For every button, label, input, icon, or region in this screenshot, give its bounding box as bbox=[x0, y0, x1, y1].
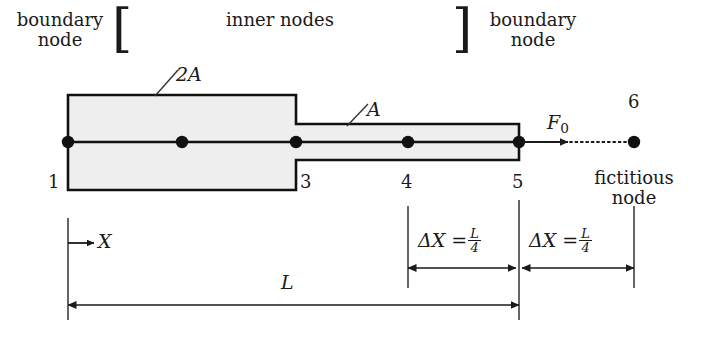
bracket-open-icon: [ bbox=[112, 2, 132, 54]
dx-right-fraction: L 4 bbox=[579, 227, 592, 254]
dx-right-denominator: 4 bbox=[579, 240, 592, 254]
caption-boundary-node-left-line1: boundary node bbox=[17, 9, 104, 50]
force-label-F0: F0 bbox=[547, 112, 569, 136]
dx-left-prefix: ΔX = bbox=[418, 229, 467, 251]
dx-left-numerator: L bbox=[468, 227, 481, 240]
area-label-thick: 2A bbox=[176, 64, 202, 85]
node-label-3: 3 bbox=[300, 172, 311, 192]
force-symbol: F bbox=[547, 111, 560, 133]
dx-left-denominator: 4 bbox=[468, 240, 481, 254]
node-label-5: 5 bbox=[512, 172, 523, 192]
axis-label-X: X bbox=[98, 231, 112, 252]
dimension-label-dx-left: ΔX = L 4 bbox=[418, 227, 482, 254]
caption-boundary-node-right: boundary node bbox=[478, 10, 588, 50]
node-dot-1 bbox=[62, 136, 74, 148]
leader-2A bbox=[155, 70, 178, 96]
caption-boundary-node-left: boundary node bbox=[6, 10, 114, 50]
dx-right-prefix: ΔX = bbox=[529, 229, 578, 251]
caption-boundary-node-right-line1: boundary node bbox=[490, 9, 577, 50]
caption-fictitious-node: fictitious node bbox=[576, 168, 692, 208]
dx-right-numerator: L bbox=[579, 227, 592, 240]
node-dot-6 bbox=[628, 136, 640, 148]
stepped-bar-diagram: boundary node inner nodes boundary node … bbox=[0, 0, 702, 340]
area-label-thin: A bbox=[367, 99, 381, 120]
dx-left-fraction: L 4 bbox=[468, 227, 481, 254]
dimension-label-L: L bbox=[281, 272, 294, 293]
bracket-close-icon: ] bbox=[452, 2, 472, 54]
node-label-6: 6 bbox=[628, 92, 639, 112]
node-label-4: 4 bbox=[401, 172, 412, 192]
caption-inner-nodes: inner nodes bbox=[160, 10, 400, 30]
node-dot-3 bbox=[290, 136, 302, 148]
node-dot-4 bbox=[402, 136, 414, 148]
dimension-label-dx-right: ΔX = L 4 bbox=[529, 227, 593, 254]
node-dot-2 bbox=[176, 136, 188, 148]
node-label-1: 1 bbox=[48, 172, 59, 192]
force-subscript: 0 bbox=[560, 120, 569, 136]
caption-fictitious-node-text: fictitious node bbox=[594, 167, 674, 208]
